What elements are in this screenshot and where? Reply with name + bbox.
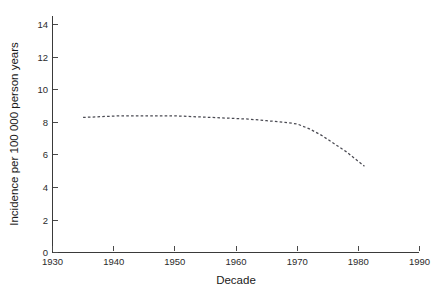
y-tick-label-14: 14 [37,19,48,30]
y-axis-tick-labels: 0 2 4 6 8 10 12 14 [37,19,48,258]
chart-plot-area: 0 2 4 6 8 10 12 14 1930 1940 1950 1960 1… [0,0,439,294]
x-axis-tick-labels: 1930 1940 1950 1960 1970 1980 1990 [42,256,430,267]
data-series-line [83,116,364,166]
y-tick-label-4: 4 [43,182,48,193]
x-tick-label-1940: 1940 [103,256,124,267]
y-tick-label-2: 2 [43,215,48,226]
x-tick-label-1960: 1960 [225,256,246,267]
y-axis-ticks [53,25,58,253]
y-tick-label-6: 6 [43,149,48,160]
x-tick-label-1970: 1970 [287,256,308,267]
y-tick-label-12: 12 [37,52,48,63]
x-tick-label-1950: 1950 [164,256,185,267]
y-tick-label-8: 8 [43,117,48,128]
y-tick-label-10: 10 [37,84,48,95]
x-axis-ticks [53,246,420,251]
y-axis-title: Incidence per 100 000 person years [8,42,20,226]
chart-figure: 0 2 4 6 8 10 12 14 1930 1940 1950 1960 1… [0,0,439,294]
x-tick-label-1930: 1930 [42,256,63,267]
x-axis-title: Decade [216,274,256,286]
x-tick-label-1990: 1990 [409,256,430,267]
x-tick-label-1980: 1980 [348,256,369,267]
